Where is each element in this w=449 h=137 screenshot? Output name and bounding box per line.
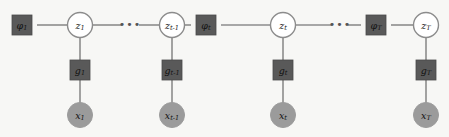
ellipsis-left: ••• (119, 18, 141, 31)
factor-graph-figure: ••••••φ1φtφTg1gt-1gtgTz1zt-1ztzTx1xt-1xt… (0, 0, 449, 137)
factor-graph-canvas: ••••••φ1φtφTg1gt-1gtgTz1zt-1ztzTx1xt-1xt… (0, 0, 449, 137)
ellipsis-right: ••• (329, 18, 351, 31)
